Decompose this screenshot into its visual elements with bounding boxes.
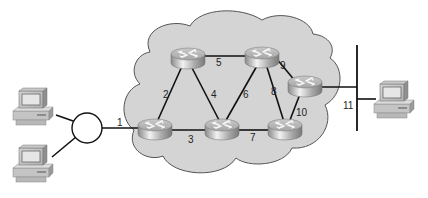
router-1: [138, 119, 172, 140]
link-label-10: 10: [296, 107, 308, 118]
link-label-6: 6: [243, 89, 249, 100]
pc-right: [374, 81, 414, 118]
link-label-8: 8: [271, 86, 277, 97]
pc-left-bottom-cable: [52, 137, 76, 157]
link-label-4: 4: [211, 89, 217, 100]
link-label-7: 7: [250, 132, 256, 143]
link-label-2: 2: [163, 89, 169, 100]
link-label-5: 5: [216, 57, 222, 68]
pc-left-bottom: [13, 145, 53, 182]
link-label-3: 3: [188, 134, 194, 145]
network-diagram: 1 2 3 4 5 6 7 8 9 10 11: [0, 0, 428, 198]
router-3: [245, 47, 279, 68]
link-label-9: 9: [280, 60, 286, 71]
router-2: [171, 48, 205, 69]
hub: [72, 113, 102, 143]
link-label-1: 1: [117, 117, 123, 128]
router-4: [205, 119, 239, 140]
router-5: [268, 119, 302, 140]
pc-left-top: [13, 88, 53, 125]
router-6: [288, 76, 322, 97]
link-label-11: 11: [343, 100, 354, 111]
